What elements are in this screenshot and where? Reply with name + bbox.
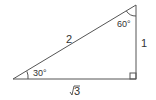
angle-arc-30 xyxy=(27,71,28,79)
angle-label-30: 30° xyxy=(33,69,47,78)
hypotenuse-label: 2 xyxy=(66,34,72,45)
base-label: 3 xyxy=(74,86,80,97)
angle-arc-60 xyxy=(126,11,136,16)
triangle xyxy=(13,5,136,79)
vertical-side-label: 1 xyxy=(141,38,147,49)
right-angle-marker xyxy=(130,73,136,79)
angle-label-60: 60° xyxy=(117,20,131,29)
